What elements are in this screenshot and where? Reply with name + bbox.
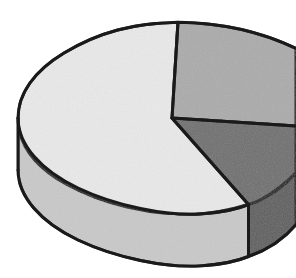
pie-chart-figure xyxy=(0,0,296,278)
pie-slice-2-top xyxy=(172,22,296,126)
pie-chart-canvas xyxy=(0,0,296,278)
